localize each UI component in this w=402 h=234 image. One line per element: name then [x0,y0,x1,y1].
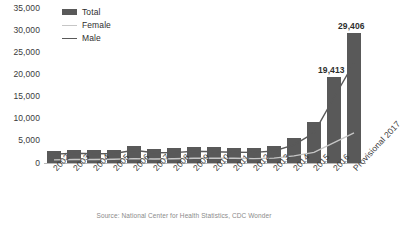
y-axis-tick-label: 10,000 [13,114,40,123]
source-note: Source: National Center for Health Stati… [0,212,368,219]
line-series-layer [44,8,364,163]
y-axis-tick-label: 0 [35,159,40,168]
y-axis-tick-label: 15,000 [13,92,40,101]
y-axis-tick-label: 35,000 [13,4,40,13]
y-axis: 35,00030,00025,00020,00015,00010,0005,00… [0,0,44,170]
line-series-male[interactable] [54,63,354,154]
plot-area: 19,41329,406 [44,8,364,163]
y-axis-tick-label: 25,000 [13,48,40,57]
y-axis-tick-label: 20,000 [13,70,40,79]
y-axis-tick-label: 30,000 [13,26,40,35]
y-axis-tick-label: 5,000 [18,136,40,145]
